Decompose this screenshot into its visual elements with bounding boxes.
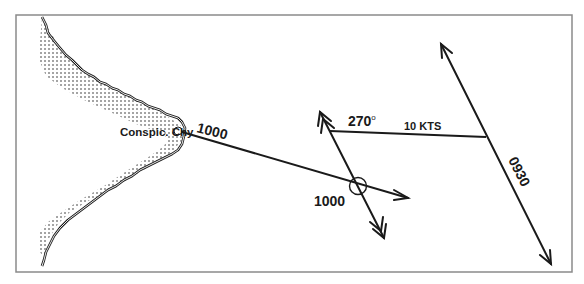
fix-time-label: 1000	[314, 193, 345, 209]
chart-frame	[16, 15, 572, 272]
tide-speed-label: 10 KTS	[404, 120, 441, 132]
navigation-plot: Conspic. Chy 1000 1000 270o 10 KTS 0930	[0, 0, 584, 284]
degree-symbol: o	[371, 113, 376, 122]
